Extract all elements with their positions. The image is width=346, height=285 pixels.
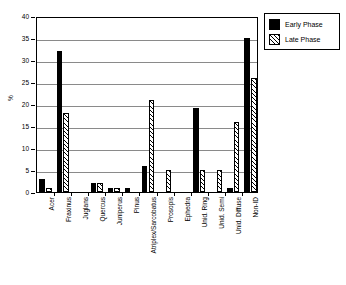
bar-early <box>142 166 148 192</box>
bar-late <box>200 170 206 192</box>
x-tick-label: Ephedra <box>184 197 191 222</box>
y-tick-mark <box>31 193 35 194</box>
x-tick-mark <box>174 192 175 196</box>
x-tick-label: Prosopis <box>167 197 174 222</box>
x-tick-label: Fraxinus <box>65 197 72 222</box>
bar-late <box>251 78 257 192</box>
x-tick-mark <box>88 192 89 196</box>
x-tick-mark <box>54 192 55 196</box>
bar-early <box>227 188 233 192</box>
bar-early <box>193 108 199 192</box>
plot-area <box>36 17 258 193</box>
x-tick-label: Quercus <box>99 197 106 222</box>
y-tick-label: 10 <box>22 146 29 153</box>
y-axis-title: % <box>7 90 14 106</box>
y-tick-mark <box>31 127 35 128</box>
y-tick-label: 0 <box>25 190 29 197</box>
y-tick-mark <box>31 83 35 84</box>
legend-swatch-early-icon <box>269 19 280 30</box>
bar-late <box>217 170 223 192</box>
x-tick-label: Juglans <box>82 197 89 219</box>
x-tick-label: Unid. Diffuse <box>235 197 242 234</box>
x-tick-label: Pinus <box>133 197 140 213</box>
y-tick-mark <box>31 171 35 172</box>
x-tick-mark <box>139 192 140 196</box>
x-tick-label: Unid. Ring <box>201 197 208 227</box>
y-tick-mark <box>31 149 35 150</box>
bar-early <box>244 38 250 192</box>
bar-late <box>234 122 240 192</box>
bar-late <box>63 113 69 192</box>
bars-layer <box>37 18 257 192</box>
y-tick-label: 30 <box>22 58 29 65</box>
x-tick-mark <box>208 192 209 196</box>
y-tick-mark <box>31 61 35 62</box>
bar-early <box>125 188 131 192</box>
bar-late <box>46 188 52 192</box>
bar-early <box>91 183 97 192</box>
x-tick-mark <box>225 192 226 196</box>
legend-item-late: Late Phase <box>269 32 339 47</box>
bar-late <box>114 188 120 192</box>
y-tick-label: 35 <box>22 36 29 43</box>
x-tick-mark <box>122 192 123 196</box>
x-tick-label: Juniperus <box>116 197 123 225</box>
x-tick-label: Atriplex/Sarcobatus <box>150 197 157 253</box>
y-tick-label: 15 <box>22 124 29 131</box>
bar-late <box>97 183 103 192</box>
x-tick-label: Unid. Semi <box>218 197 225 229</box>
y-tick-mark <box>31 39 35 40</box>
x-tick-label: Acer <box>48 197 55 210</box>
x-tick-mark <box>242 192 243 196</box>
legend-label-late: Late Phase <box>285 36 320 44</box>
y-tick-label: 20 <box>22 102 29 109</box>
legend-swatch-late-icon <box>269 34 280 45</box>
x-tick-mark <box>191 192 192 196</box>
bar-late <box>166 170 172 192</box>
bar-late <box>149 100 155 192</box>
y-tick-label: 5 <box>25 168 29 175</box>
chart-legend: Early Phase Late Phase <box>264 13 340 50</box>
chart-figure: 0510152025303540 % AcerFraxinusJuglansQu… <box>0 0 346 285</box>
bar-early <box>108 188 114 192</box>
legend-label-early: Early Phase <box>285 21 323 29</box>
x-axis: AcerFraxinusJuglansQuercusJuniperusPinus… <box>36 197 258 283</box>
bar-early <box>39 179 45 192</box>
bar-early <box>57 51 63 192</box>
y-tick-mark <box>31 105 35 106</box>
y-tick-label: 25 <box>22 80 29 87</box>
y-axis: 0510152025303540 <box>0 0 36 194</box>
y-tick-label: 40 <box>22 14 29 21</box>
x-tick-mark <box>105 192 106 196</box>
x-tick-label: Non-ID <box>252 197 259 218</box>
x-tick-mark <box>71 192 72 196</box>
y-tick-mark <box>31 17 35 18</box>
x-tick-mark <box>157 192 158 196</box>
legend-item-early: Early Phase <box>269 17 339 32</box>
